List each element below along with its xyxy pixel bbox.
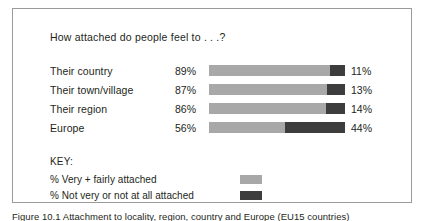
- row-value-not-attached: 44%: [345, 122, 372, 134]
- bar-segment-attached: [209, 103, 326, 114]
- row-value-not-attached: 11%: [345, 65, 371, 77]
- chart-legend: KEY: % Very + fairly attached % Not very…: [50, 156, 300, 203]
- stacked-bar: [209, 103, 345, 114]
- row-value-attached: 56%: [175, 122, 209, 134]
- stacked-bar: [209, 65, 345, 76]
- legend-heading: KEY:: [50, 156, 300, 167]
- legend-label: % Very + fairly attached: [50, 174, 240, 185]
- bar-segment-not-attached: [285, 122, 345, 133]
- bar-rows: Their country 89% 11% Their town/village…: [50, 61, 390, 137]
- row-label: Their country: [50, 65, 175, 77]
- bar-segment-attached: [209, 65, 330, 76]
- row-value-not-attached: 13%: [345, 84, 372, 96]
- table-row: Europe 56% 44%: [50, 118, 390, 137]
- bar-segment-not-attached: [327, 84, 345, 95]
- bar-segment-not-attached: [326, 103, 345, 114]
- table-row: Their region 86% 14%: [50, 99, 390, 118]
- row-label: Their region: [50, 103, 175, 115]
- bar-segment-attached: [209, 122, 285, 133]
- bar-segment-attached: [209, 84, 327, 95]
- legend-swatch-attached: [240, 175, 262, 184]
- row-label: Europe: [50, 122, 175, 134]
- stacked-bar: [209, 122, 345, 133]
- legend-item-attached: % Very + fairly attached: [50, 171, 300, 187]
- legend-label: % Not very or not at all attached: [50, 190, 240, 201]
- stacked-bar: [209, 84, 345, 95]
- chart-title: How attached do people feel to . . .?: [50, 31, 226, 43]
- row-value-attached: 89%: [175, 65, 209, 77]
- figure-box: How attached do people feel to . . .? Th…: [12, 8, 412, 203]
- row-value-not-attached: 14%: [345, 103, 372, 115]
- bar-segment-not-attached: [330, 65, 345, 76]
- row-value-attached: 87%: [175, 84, 209, 96]
- figure-caption: Figure 10.1 Attachment to locality, regi…: [12, 211, 421, 221]
- legend-swatch-not-attached: [240, 191, 262, 200]
- row-label: Their town/village: [50, 84, 175, 96]
- table-row: Their town/village 87% 13%: [50, 80, 390, 99]
- legend-item-not-attached: % Not very or not at all attached: [50, 187, 300, 203]
- table-row: Their country 89% 11%: [50, 61, 390, 80]
- row-value-attached: 86%: [175, 103, 209, 115]
